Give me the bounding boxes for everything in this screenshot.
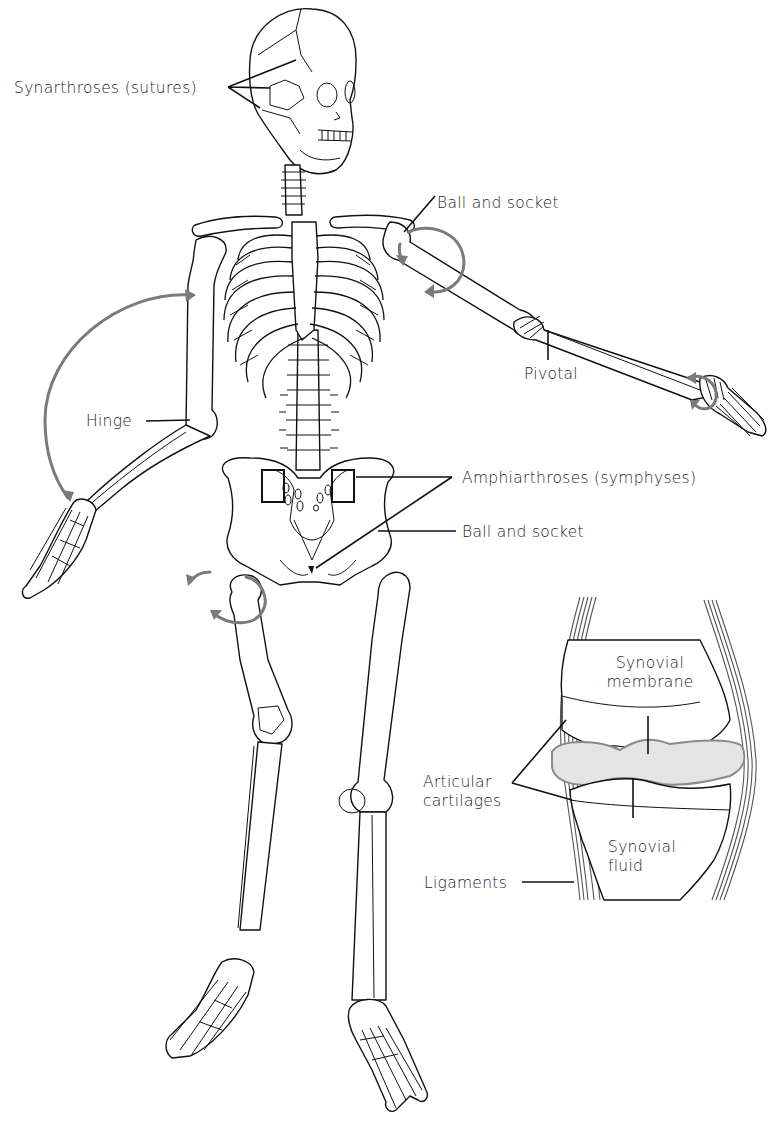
label-amphiarthroses: Amphiarthroses (symphyses) (462, 469, 696, 488)
label-ball-socket-shoulder: Ball and socket (437, 194, 559, 213)
label-articular-cartilages: Articular cartilages (423, 773, 515, 811)
label-pivotal: Pivotal (524, 365, 578, 384)
leg-right-side (339, 572, 427, 1111)
label-ligaments: Ligaments (424, 874, 507, 893)
label-ball-socket-hip: Ball and socket (462, 523, 584, 542)
hand-left (23, 499, 96, 598)
label-hinge: Hinge (86, 412, 132, 431)
joint-types-diagram: Synarthroses (sutures) Ball and socket P… (0, 0, 782, 1136)
leg-left-side (166, 575, 292, 1058)
skeleton-illustration (0, 0, 782, 1136)
foot-right (348, 999, 427, 1111)
label-synovial-membrane: Synovial membrane (600, 654, 700, 692)
arm-right-side (383, 222, 766, 436)
foot-left (166, 959, 254, 1058)
label-synovial-fluid: Synovial fluid (608, 838, 684, 876)
label-synarthroses: Synarthroses (sutures) (14, 79, 197, 98)
skull (250, 9, 357, 174)
hand-right (700, 376, 766, 436)
